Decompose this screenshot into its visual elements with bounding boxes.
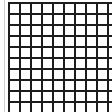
grid-horizontal-line — [8, 101, 112, 103]
grid-horizontal-line — [8, 79, 112, 81]
grid-horizontal-line — [8, 35, 112, 37]
grid-horizontal-line — [8, 90, 112, 92]
grid-horizontal-line — [8, 24, 112, 26]
grid-horizontal-line — [8, 2, 112, 4]
faint-border-line — [4, 0, 5, 112]
grid-horizontal-line — [8, 46, 112, 48]
grid-horizontal-line — [8, 13, 112, 15]
grid-horizontal-line — [8, 57, 112, 59]
grid-horizontal-line — [8, 68, 112, 70]
grid-canvas — [0, 0, 112, 112]
